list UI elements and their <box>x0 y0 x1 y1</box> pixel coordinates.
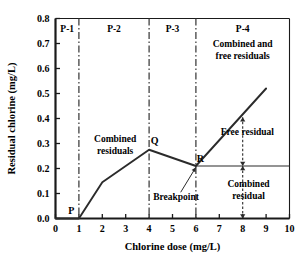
x-tick-label: 1 <box>76 223 81 234</box>
y-tick-label: 0.0 <box>37 213 50 224</box>
y-tick-label: 0.3 <box>37 138 50 149</box>
x-tick-label: 4 <box>147 223 152 234</box>
chart-canvas: 012345678910 0.00.10.20.30.40.50.60.70.8… <box>0 0 304 256</box>
x-tick-label: 5 <box>170 223 175 234</box>
point-label-p: P <box>68 205 74 216</box>
annotation-combined-residual-line1: Combined <box>227 179 270 189</box>
point-label-r: R <box>197 153 205 164</box>
x-tick-label: 9 <box>264 223 269 234</box>
y-axis-title: Residual chlorine (mg/L) <box>6 62 18 175</box>
region-label-p-1: P-1 <box>60 24 74 34</box>
y-tick-label: 0.1 <box>37 188 50 199</box>
x-axis-title: Chlorine dose (mg/L) <box>125 241 221 253</box>
y-tick-label: 0.7 <box>37 38 50 49</box>
annotation-combined-residuals-line2: residuals <box>97 146 134 156</box>
x-tick-label: 7 <box>217 223 222 234</box>
annotation-combined-and-free-residuals-line2: free residuals <box>216 51 271 61</box>
region-label-p-4: P-4 <box>236 24 250 34</box>
annotation-breakpoint: Breakpoint <box>153 192 200 202</box>
breakpoint-chlorination-chart: 012345678910 0.00.10.20.30.40.50.60.70.8… <box>0 0 304 256</box>
x-tick-label: 0 <box>53 223 58 234</box>
point-label-q: Q <box>151 135 159 146</box>
annotation-combined-residual-line2: residual <box>232 191 265 201</box>
x-tick-label: 10 <box>285 223 295 234</box>
y-tick-label: 0.2 <box>37 163 50 174</box>
y-tick-label: 0.4 <box>37 113 50 124</box>
y-tick-label: 0.6 <box>37 63 50 74</box>
region-label-p-2: P-2 <box>107 24 121 34</box>
annotation-combined-residuals-line1: Combined <box>94 134 137 144</box>
y-axis-tick-labels: 0.00.10.20.30.40.50.60.70.8 <box>37 13 50 224</box>
x-tick-label: 2 <box>100 223 105 234</box>
x-tick-label: 3 <box>123 223 128 234</box>
x-tick-label: 6 <box>193 223 198 234</box>
annotation-free-residual: Free residual <box>221 127 275 137</box>
x-tick-label: 8 <box>240 223 245 234</box>
y-tick-label: 0.8 <box>37 13 50 24</box>
annotation-combined-and-free-residuals-line1: Combined and <box>213 39 274 49</box>
y-tick-label: 0.5 <box>37 88 50 99</box>
region-label-p-3: P-3 <box>166 24 180 34</box>
